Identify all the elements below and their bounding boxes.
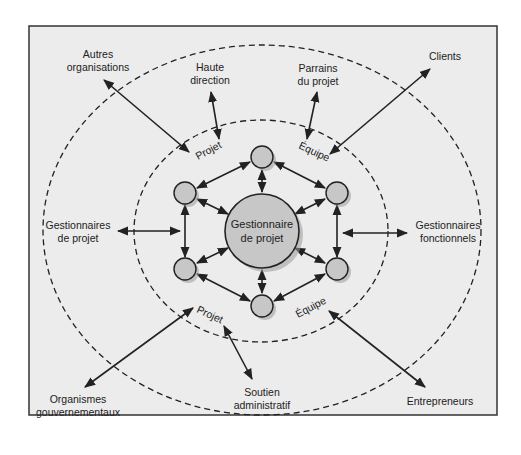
- svg-text:Entrepreneurs: Entrepreneurs: [407, 395, 474, 407]
- svg-text:fonctionnels: fonctionnels: [420, 232, 476, 244]
- label-clients: Clients: [429, 50, 461, 62]
- svg-text:gouvernementaux: gouvernementaux: [36, 406, 121, 418]
- svg-text:administratif: administratif: [234, 399, 291, 411]
- label-gestionnaires-fonctionnels: Gestionnaires fonctionnels: [416, 219, 481, 244]
- label-parrains-du-projet: Parrains du projet: [298, 62, 339, 87]
- svg-text:Autres: Autres: [83, 48, 113, 60]
- stakeholder-diagram: Gestionnaire de projet Projet Équipe Pro…: [0, 0, 521, 455]
- svg-text:direction: direction: [190, 74, 230, 86]
- svg-text:organisations: organisations: [67, 61, 129, 73]
- svg-text:de projet: de projet: [58, 232, 99, 244]
- svg-text:du projet: du projet: [298, 75, 339, 87]
- svg-text:Gestionnaires: Gestionnaires: [46, 219, 111, 231]
- svg-text:Parrains: Parrains: [298, 62, 337, 74]
- svg-text:Soutien: Soutien: [244, 386, 280, 398]
- svg-text:Clients: Clients: [429, 50, 461, 62]
- svg-text:Organismes: Organismes: [50, 393, 107, 405]
- label-entrepreneurs: Entrepreneurs: [407, 395, 474, 407]
- svg-text:Haute: Haute: [196, 61, 224, 73]
- center-label-line1: Gestionnaire: [231, 218, 293, 230]
- svg-text:Gestionnaires: Gestionnaires: [416, 219, 481, 231]
- center-label-line2: de projet: [241, 232, 284, 244]
